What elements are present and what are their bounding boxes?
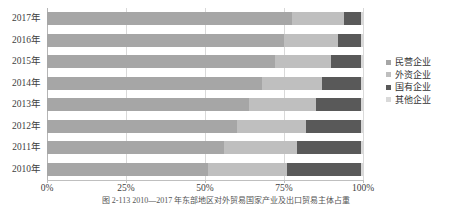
legend-item[interactable]: 其他企业: [386, 94, 452, 107]
x-axis-tick-label: 25%: [117, 182, 134, 194]
legend-swatch-icon: [386, 97, 391, 102]
bar-segment: [344, 12, 361, 25]
bar-row: [47, 141, 363, 154]
bar-segment: [47, 77, 262, 90]
legend-item[interactable]: 民营企业: [386, 56, 452, 69]
bar-segment: [322, 77, 362, 90]
bar-segment: [361, 77, 363, 90]
x-axis-tick-label: 75%: [275, 182, 292, 194]
bar-segment: [361, 120, 363, 133]
bar-segment: [297, 141, 362, 154]
bar-segment: [275, 55, 332, 68]
stacked-bar-chart: 2017年2016年2015年2014年2013年2012年2011年2010年…: [0, 0, 452, 205]
bar-segment: [292, 12, 344, 25]
bar-segment: [262, 77, 322, 90]
bar-segment: [208, 163, 287, 176]
bar-row: [47, 34, 363, 47]
bar-segment: [284, 34, 338, 47]
bar-segment: [361, 98, 363, 111]
bar-segment: [224, 141, 297, 154]
bar-row: [47, 12, 363, 25]
gridline-100: [363, 8, 364, 180]
bar-row: [47, 77, 363, 90]
legend-swatch-icon: [386, 72, 391, 77]
bar-segment: [287, 163, 361, 176]
bar-segment: [237, 120, 307, 133]
x-axis-tick-label: 100%: [352, 182, 374, 194]
bar-row: [47, 120, 363, 133]
legend-label: 外资企业: [395, 69, 431, 81]
bar-row: [47, 55, 363, 68]
legend-label: 国有企业: [395, 81, 431, 93]
bar-rows: [47, 8, 363, 180]
x-axis-tick-label: 50%: [196, 182, 213, 194]
y-axis-category-label: 2016年: [12, 35, 41, 46]
bar-segment: [47, 12, 292, 25]
legend-swatch-icon: [386, 85, 391, 90]
bar-segment: [361, 141, 363, 154]
bar-segment: [47, 163, 208, 176]
plot-area: [47, 8, 363, 180]
figure-caption: 图 2-113 2010—2017 年东部地区对外贸易国家产业及出口贸易主体占重: [0, 196, 452, 205]
bar-segment: [249, 98, 315, 111]
bar-segment: [47, 120, 237, 133]
y-axis-category-label: 2011年: [12, 142, 41, 153]
legend-label: 其他企业: [395, 94, 431, 106]
bar-segment: [361, 12, 363, 25]
legend-item[interactable]: 国有企业: [386, 81, 452, 94]
y-axis-category-label: 2014年: [12, 78, 41, 89]
x-axis-tick-label: 0%: [41, 182, 54, 194]
chart-legend: 民营企业外资企业国有企业其他企业: [386, 56, 452, 106]
bar-segment: [47, 34, 284, 47]
y-axis-category-label: 2015年: [12, 56, 41, 67]
y-axis-labels: 2017年2016年2015年2014年2013年2012年2011年2010年: [0, 8, 44, 180]
legend-swatch-icon: [386, 60, 391, 65]
y-axis-category-label: 2012年: [12, 121, 41, 132]
bar-row: [47, 98, 363, 111]
y-axis-category-label: 2013年: [12, 99, 41, 110]
bar-segment: [306, 120, 361, 133]
bar-segment: [47, 55, 275, 68]
legend-label: 民营企业: [395, 56, 431, 68]
bar-segment: [361, 163, 363, 176]
x-axis-labels: 0%25%50%75%100%: [0, 182, 452, 196]
bar-segment: [361, 34, 363, 47]
bar-row: [47, 163, 363, 176]
bar-segment: [47, 98, 249, 111]
legend-item[interactable]: 外资企业: [386, 69, 452, 82]
bar-segment: [316, 98, 362, 111]
bar-segment: [338, 34, 362, 47]
bar-segment: [361, 55, 363, 68]
y-axis-category-label: 2017年: [12, 13, 41, 24]
bar-segment: [47, 141, 224, 154]
y-axis-category-label: 2010年: [12, 164, 41, 175]
bar-segment: [331, 55, 361, 68]
